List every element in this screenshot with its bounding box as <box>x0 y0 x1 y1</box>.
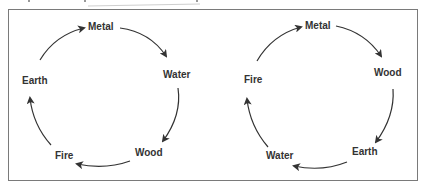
node-wood-left: Wood <box>135 147 163 158</box>
arrow-wood-to-fire <box>77 161 130 166</box>
arrow-water-to-wood <box>163 88 179 141</box>
node-water-right: Water <box>266 150 294 161</box>
node-fire-right: Fire <box>244 74 263 85</box>
node-fire-left: Fire <box>55 150 74 161</box>
arrow-fire-to-earth <box>30 98 51 145</box>
left-cycle: Metal Water Wood Fire Earth <box>22 21 191 166</box>
node-metal-left: Metal <box>88 21 114 32</box>
arrow-wood-to-earth <box>376 89 393 142</box>
cycles-diagram: Metal Water Wood Fire Earth Metal Wood E… <box>0 0 423 185</box>
node-wood-right: Wood <box>374 67 402 78</box>
arrow-metal-to-wood <box>336 26 381 56</box>
arrow-metal-to-water <box>120 28 166 56</box>
arrow-earth-to-water <box>294 162 347 168</box>
node-earth-left: Earth <box>22 75 48 86</box>
node-earth-right: Earth <box>352 146 378 157</box>
node-metal-right: Metal <box>305 20 331 31</box>
arrow-earth-to-metal <box>40 28 84 60</box>
arrow-fire-to-metal <box>257 27 301 61</box>
node-water-left: Water <box>163 69 191 80</box>
arrow-water-to-fire <box>247 99 268 147</box>
right-cycle: Metal Wood Earth Water Fire <box>244 20 402 168</box>
